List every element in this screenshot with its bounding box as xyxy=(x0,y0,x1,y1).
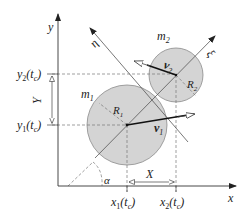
x1-tc-label: x1(tc) xyxy=(110,195,135,211)
xi-label: ξ xyxy=(204,47,219,61)
alpha-label: α xyxy=(104,174,110,186)
x-distance-label: X xyxy=(145,167,154,181)
mass-2-label: m2 xyxy=(157,29,170,45)
center-2-dot xyxy=(175,74,177,76)
center-1-dot xyxy=(126,124,129,127)
x2-tc-label: x2(tc) xyxy=(159,195,184,211)
y1-tc-label: y1(tc) xyxy=(16,118,41,134)
collision-diagram: y x η ξ α m1 R1 v1 m2 R2 v2 y2(tc) y1(tc… xyxy=(0,0,248,224)
y-axis-label: y xyxy=(47,20,54,34)
y2-tc-label: y2(tc) xyxy=(16,67,41,83)
mass-1-label: m1 xyxy=(81,87,94,103)
x-axis-label: x xyxy=(227,191,234,205)
y-distance-label: Y xyxy=(30,96,44,104)
